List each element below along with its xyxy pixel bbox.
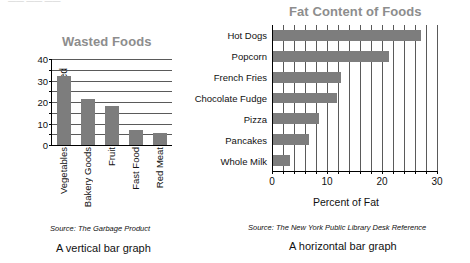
category-label: Pizza xyxy=(244,113,267,124)
vertical-chart-source: Source: The Garbage Product xyxy=(50,224,150,233)
x-tick-label: 20 xyxy=(376,176,387,187)
y-tick-label: 0 xyxy=(43,140,48,151)
gridline xyxy=(404,25,405,171)
figure-page: —— —— —— ° Wasted Foods Percent Wasted 0… xyxy=(0,0,470,263)
gridline xyxy=(52,59,172,60)
gridline xyxy=(393,25,394,171)
bar xyxy=(129,130,142,145)
x-tick-label: 0 xyxy=(269,176,275,187)
vertical-bar-chart: Wasted Foods Percent Wasted 010203040 Ve… xyxy=(0,0,235,263)
gridline xyxy=(52,70,172,71)
category-label: Red Meat xyxy=(154,147,165,188)
vertical-chart-x-axis-line xyxy=(51,145,172,146)
gridline xyxy=(415,25,416,171)
horizontal-chart-plot-area: Hot DogsPopcornFrench FriesChocolate Fud… xyxy=(272,25,437,171)
horizontal-bar-chart: Fat Content of Foods Hot DogsPopcornFren… xyxy=(235,0,470,263)
gridline xyxy=(349,25,350,171)
category-label: Popcorn xyxy=(232,51,267,62)
category-label: French Fries xyxy=(214,72,267,83)
category-label: Fruit xyxy=(106,147,117,166)
horizontal-chart-source: Source: The New York Public Library Desk… xyxy=(248,223,426,232)
bar xyxy=(272,30,421,41)
bar xyxy=(272,93,337,104)
gridline xyxy=(426,25,427,171)
y-tick-label: 10 xyxy=(37,118,48,129)
bar xyxy=(272,155,290,166)
category-label: Fast Food xyxy=(130,147,141,190)
horizontal-chart-title: Fat Content of Foods xyxy=(289,4,422,19)
horizontal-chart-x-axis-label: Percent of Fat xyxy=(313,196,379,208)
bar xyxy=(272,113,319,124)
bar xyxy=(105,106,118,145)
x-tick-label: 10 xyxy=(321,176,332,187)
bar xyxy=(153,133,166,145)
horizontal-chart-y-axis-line xyxy=(272,25,273,171)
horizontal-chart-x-axis-line xyxy=(272,171,437,172)
horizontal-chart-caption: A horizontal bar graph xyxy=(289,240,397,252)
x-tick-label: 30 xyxy=(431,176,442,187)
y-tick-label: 30 xyxy=(37,75,48,86)
gridline xyxy=(338,25,339,171)
vertical-chart-y-axis-line xyxy=(51,59,52,145)
gridline xyxy=(382,25,383,171)
category-label: Vegetables xyxy=(58,147,69,194)
category-label: Chocolate Fudge xyxy=(195,93,267,104)
category-label: Bakery Goods xyxy=(82,147,93,207)
bar xyxy=(81,99,94,145)
minor-tick xyxy=(437,171,438,174)
gridline xyxy=(360,25,361,171)
bar xyxy=(272,134,309,145)
gridline xyxy=(371,25,372,171)
bar xyxy=(272,51,389,62)
category-label: Pancakes xyxy=(225,134,267,145)
y-tick-label: 40 xyxy=(37,54,48,65)
category-label: Hot Dogs xyxy=(227,30,267,41)
y-tick-label: 20 xyxy=(37,97,48,108)
vertical-chart-title: Wasted Foods xyxy=(62,34,152,49)
gridline xyxy=(437,25,438,171)
vertical-chart-caption: A vertical bar graph xyxy=(56,242,151,254)
bar xyxy=(57,76,70,145)
category-label: Whole Milk xyxy=(221,155,267,166)
vertical-chart-plot-area: Percent Wasted 010203040 VegetablesBaker… xyxy=(52,59,172,145)
bar xyxy=(272,72,341,83)
